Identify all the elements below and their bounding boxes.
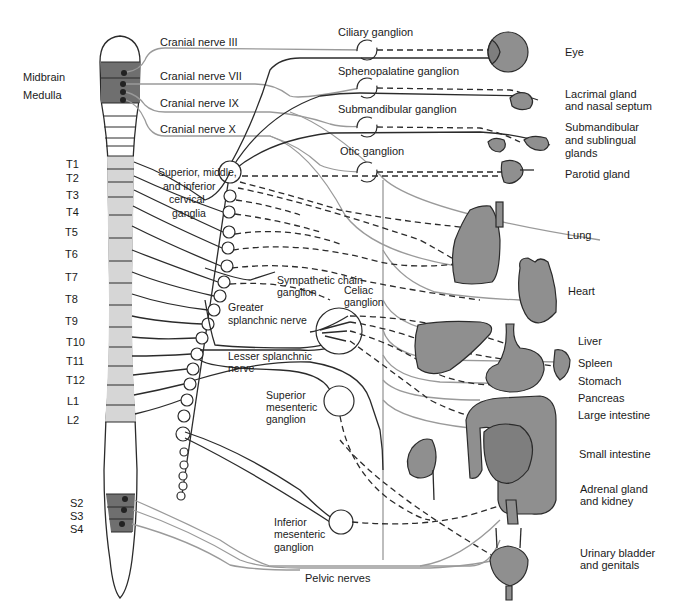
label-lacrimal-1: Lacrimal gland [565,88,637,100]
label-large-intestine: Large intestine [578,409,650,421]
label-t10: T10 [66,336,85,348]
label-superior-mesenteric-2: mesenteric [266,401,317,413]
label-bladder-1: Urinary bladder [580,547,656,559]
label-cranial-nerve-vii: Cranial nerve VII [160,70,242,82]
label-pelvic-nerves: Pelvic nerves [305,572,371,584]
label-lung: Lung [567,229,591,241]
label-eye: Eye [565,46,584,58]
label-s3: S3 [70,510,83,522]
label-greater-splanchnic-1: Greater [228,301,264,313]
ciliary-ganglion [357,40,377,60]
superior-mesenteric-ganglion [324,386,354,416]
heart-icon [519,258,557,323]
label-cervical-ganglia-1: Superior, middle, [158,166,237,178]
label-s2: S2 [70,497,83,509]
label-submandibular-2: and sublingual [565,134,636,146]
label-s4: S4 [70,523,83,535]
label-cranial-nerve-x: Cranial nerve X [160,123,236,135]
label-t3: T3 [66,189,79,201]
spinal-labels: Midbrain Medulla T1 T2 T3 T4 T5 T6 T7 T8… [23,71,85,535]
label-t9: T9 [65,315,78,327]
stomach-icon [486,324,544,392]
label-t11: T11 [66,355,84,367]
submandibular-ganglion [357,117,377,137]
label-stomach: Stomach [578,375,621,387]
label-lesser-splanchnic-1: Lesser splanchnic [228,350,312,362]
label-celiac-1: Celiac [344,284,373,296]
label-l1: L1 [67,395,79,407]
label-inferior-mesenteric-1: Inferior [274,516,307,528]
label-bladder-2: and genitals [580,559,640,571]
kidney-icon [407,439,436,500]
label-lacrimal-2: and nasal septum [565,100,652,112]
lung-icon [453,202,504,284]
label-spleen: Spleen [578,357,612,369]
intestine-icon [466,396,556,524]
label-lesser-splanchnic-2: nerve [228,362,254,374]
label-cervical-ganglia-3: cervical [169,193,205,205]
label-greater-splanchnic-2: splanchnic nerve [228,314,307,326]
organ-labels: Eye Lacrimal gland and nasal septum Subm… [565,46,656,571]
label-cervical-ganglia-2: and inferior [163,180,216,192]
label-cervical-ganglia-4: ganglia [172,207,206,219]
label-adrenal-2: and kidney [580,495,634,507]
label-pancreas: Pancreas [578,392,625,404]
label-adrenal-1: Adrenal gland [580,483,648,495]
label-t5: T5 [65,226,78,238]
label-otic-ganglion: Otic ganglion [340,145,404,157]
label-heart: Heart [568,285,595,297]
label-sphenopalatine-ganglion: Sphenopalatine ganglion [338,65,459,77]
autonomic-nervous-system-diagram: Midbrain Medulla T1 T2 T3 T4 T5 T6 T7 T8… [0,0,683,615]
label-midbrain: Midbrain [23,71,65,83]
submandibular-gland-icon [488,136,549,152]
label-t8: T8 [65,293,78,305]
thoracolumbar-segments [105,156,136,422]
label-t2: T2 [66,172,79,184]
label-cranial-nerve-ix: Cranial nerve IX [160,97,240,109]
spleen-icon [554,350,570,380]
label-superior-mesenteric-3: ganglion [266,413,306,425]
liver-icon [415,321,492,373]
parotid-gland-icon [501,160,534,183]
label-superior-mesenteric-1: Superior [266,389,306,401]
label-sympathetic-chain-2: ganglion [277,286,317,298]
label-celiac-2: ganglion [344,296,384,308]
lacrimal-gland-icon [510,93,538,110]
label-submandibular-1: Submandibular [565,121,639,133]
label-parotid: Parotid gland [565,168,630,180]
label-submandibular-3: glands [565,147,598,159]
label-small-intestine: Small intestine [579,448,651,460]
label-liver: Liver [578,335,602,347]
inferior-mesenteric-ganglion [329,510,353,534]
label-t1: T1 [66,158,79,170]
ganglion-labels: Superior, middle, and inferior cervical … [158,166,384,553]
label-t7: T7 [65,271,78,283]
label-l2: L2 [67,414,79,426]
eye-icon [488,32,528,72]
label-inferior-mesenteric-2: mesenteric [274,528,325,540]
urinary-bladder-icon [490,528,528,600]
label-medulla: Medulla [23,89,62,101]
label-inferior-mesenteric-3: ganglion [274,541,314,553]
label-t6: T6 [65,248,78,260]
label-t12: T12 [66,374,85,386]
label-ciliary-ganglion: Ciliary ganglion [338,26,413,38]
organs [407,32,570,600]
label-cranial-nerve-iii: Cranial nerve III [160,36,238,48]
sphenopalatine-ganglion [357,78,377,98]
label-submandibular-ganglion: Submandibular ganglion [338,103,457,115]
otic-ganglion [357,162,377,182]
label-t4: T4 [66,206,79,218]
